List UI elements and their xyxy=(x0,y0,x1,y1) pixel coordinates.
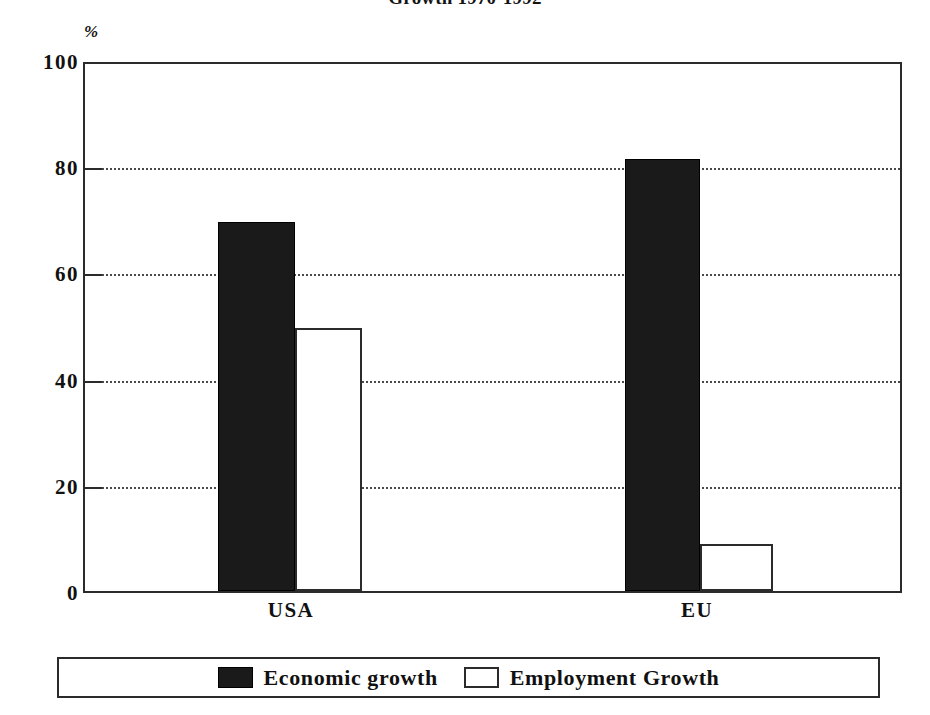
chart-title: Growth 1970-1992 xyxy=(0,0,930,9)
y-tick-mark-60 xyxy=(85,274,102,276)
filled-square-icon xyxy=(218,667,253,688)
y-tick-mark-20 xyxy=(85,487,102,489)
y-tick-mark-80 xyxy=(85,168,102,170)
bar-eu-economic-growth[interactable] xyxy=(625,159,700,591)
legend-label-employment-growth: Employment Growth xyxy=(510,665,720,691)
y-tick-mark-40 xyxy=(85,381,102,383)
y-axis-tick-label-0: 0 xyxy=(5,581,79,606)
gridline-60 xyxy=(85,274,900,276)
y-axis-tick-label-20: 20 xyxy=(5,474,79,499)
x-axis-category-label-eu: EU xyxy=(681,598,713,623)
x-axis-category-label-usa: USA xyxy=(268,598,315,623)
legend-entry-employment-growth[interactable]: Employment Growth xyxy=(464,665,720,691)
outline-square-icon xyxy=(464,667,499,688)
bar-usa-economic-growth[interactable] xyxy=(218,222,295,591)
chart-legend: Economic growth Employment Growth xyxy=(57,657,880,698)
gridline-20 xyxy=(85,487,900,489)
bar-eu-employment-growth[interactable] xyxy=(700,544,773,591)
legend-entry-economic-growth[interactable]: Economic growth xyxy=(218,665,438,691)
y-axis-unit-label: % xyxy=(84,22,98,42)
y-axis-tick-label-100: 100 xyxy=(5,50,79,75)
bar-usa-employment-growth[interactable] xyxy=(295,328,362,592)
legend-label-economic-growth: Economic growth xyxy=(264,665,438,691)
y-axis-tick-label-40: 40 xyxy=(5,368,79,393)
gridline-80 xyxy=(85,168,900,170)
y-axis-tick-label-60: 60 xyxy=(5,262,79,287)
plot-inner-canvas xyxy=(85,64,900,591)
gridline-40 xyxy=(85,381,900,383)
y-axis-tick-label-80: 80 xyxy=(5,156,79,181)
y-axis-tick-label-group: 100 80 60 40 20 0 xyxy=(0,62,79,593)
plot-area xyxy=(83,62,902,593)
